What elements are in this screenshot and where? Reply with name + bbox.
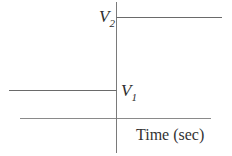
x-axis-label: Time (sec) xyxy=(136,127,204,143)
v2-label: V2 xyxy=(99,8,115,25)
v1-label-main: V xyxy=(121,81,131,100)
v2-label-main: V xyxy=(99,7,109,26)
v1-label-subscript: 1 xyxy=(131,91,137,103)
v1-label: V1 xyxy=(121,82,137,99)
v2-label-subscript: 2 xyxy=(109,17,115,29)
step-function-diagram: V2 V1 Time (sec) xyxy=(0,0,232,156)
